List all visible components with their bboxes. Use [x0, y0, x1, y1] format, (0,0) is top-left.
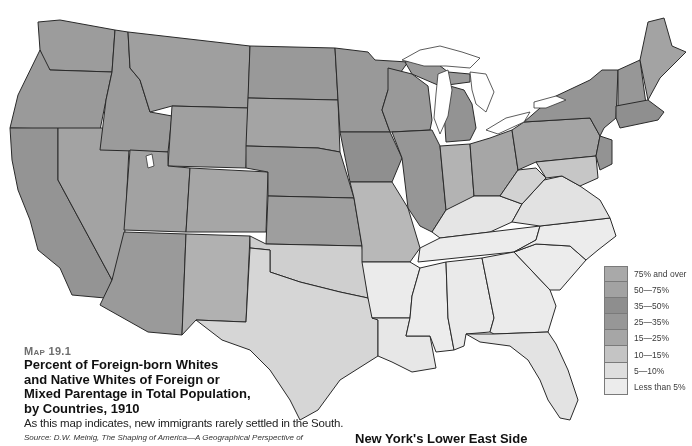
state-maine — [640, 18, 686, 100]
legend-item-5-10: 5—10% — [604, 363, 686, 379]
legend-label: 75% and over — [634, 269, 686, 279]
legend-item-75-and-over: 75% and over — [604, 266, 686, 282]
legend-label: 10—15% — [634, 350, 669, 360]
legend-label: 35—50% — [634, 301, 669, 311]
legend-swatch — [604, 298, 628, 314]
legend-item-10-15: 10—15% — [604, 346, 686, 362]
map-title-line: and Native Whites of Foreign or — [24, 373, 354, 388]
legend-item-15-25: 15—25% — [604, 330, 686, 346]
legend-label: Less than 5% — [634, 382, 686, 392]
legend-label: 25—35% — [634, 317, 669, 327]
map-title-line: Percent of Foreign-born Whites — [24, 358, 354, 373]
legend-swatch — [604, 346, 628, 362]
legend-swatch — [604, 379, 628, 395]
map-number: Map 19.1 — [24, 345, 354, 357]
source-text: D.W. Meinig, The Shaping of America—A Ge… — [54, 433, 303, 442]
state-florida — [466, 332, 578, 420]
source-label: Source: — [24, 433, 52, 442]
map-title-line: Mixed Parentage in Total Population, — [24, 387, 354, 402]
legend-item-35-50: 35—50% — [604, 298, 686, 314]
legend-label: 50—75% — [634, 285, 669, 295]
map-description: As this map indicates, new immigrants ra… — [24, 417, 354, 429]
legend-swatch — [604, 282, 628, 298]
legend-label: 15—25% — [634, 333, 669, 343]
map-caption: Map 19.1 Percent of Foreign-born Whites … — [24, 345, 354, 442]
legend-swatch — [604, 314, 628, 330]
legend-swatch — [604, 363, 628, 379]
section-heading: New York's Lower East Side — [355, 431, 527, 446]
state-massachusetts-ct-ri — [616, 100, 664, 128]
map-title: Percent of Foreign-born Whites and Nativ… — [24, 358, 354, 416]
legend-swatch — [604, 266, 628, 282]
lake-huron — [470, 72, 494, 112]
legend-item-less-than-5: Less than 5% — [604, 379, 686, 395]
map-title-line: by Countries, 1910 — [24, 402, 354, 417]
legend-item-50-75: 50—75% — [604, 282, 686, 298]
legend: 75% and over 50—75% 35—50% 25—35% 15—25%… — [604, 266, 686, 395]
map-source: Source: D.W. Meinig, The Shaping of Amer… — [24, 433, 354, 442]
legend-item-25-35: 25—35% — [604, 314, 686, 330]
legend-label: 5—10% — [634, 366, 664, 376]
legend-swatch — [604, 330, 628, 346]
